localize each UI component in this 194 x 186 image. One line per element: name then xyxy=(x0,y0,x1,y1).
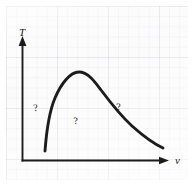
x-axis-arrowhead xyxy=(159,157,169,164)
question-mark-annotations: ? ? ? xyxy=(33,101,122,126)
question-mark-left: ? xyxy=(33,102,39,114)
question-mark-right: ? xyxy=(116,101,122,112)
figure-root: T v ? ? ? xyxy=(0,0,194,186)
curve-T-of-v xyxy=(45,72,163,151)
y-axis-label: T xyxy=(19,26,26,38)
data-series-group xyxy=(45,72,163,151)
axes-group xyxy=(19,36,169,164)
x-axis-label: v xyxy=(175,154,180,166)
chart-canvas: T v ? ? ? xyxy=(0,0,194,186)
question-mark-middle: ? xyxy=(73,115,79,126)
